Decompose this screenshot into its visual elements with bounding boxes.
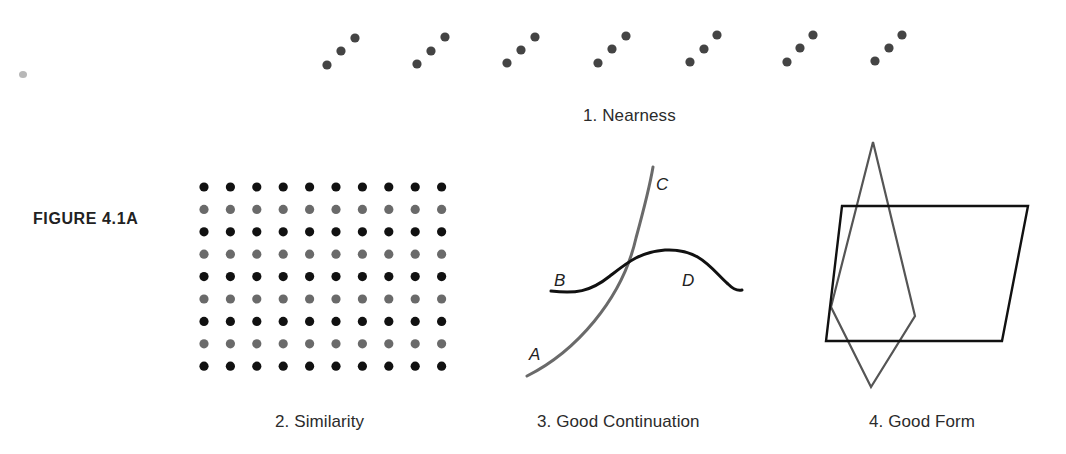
similarity-dot (331, 294, 340, 303)
similarity-dot (305, 339, 314, 348)
nearness-dot (607, 44, 616, 53)
similarity-dot (252, 294, 261, 303)
similarity-dot (358, 205, 367, 214)
similarity-dot (331, 339, 340, 348)
similarity-dot (384, 205, 393, 214)
similarity-dot (437, 182, 446, 191)
similarity-dot (279, 205, 288, 214)
similarity-dot (199, 250, 208, 259)
nearness-dot (712, 30, 721, 39)
curve-label-b: B (554, 272, 565, 289)
similarity-dot (331, 362, 340, 371)
similarity-dot (437, 317, 446, 326)
nearness-dot (530, 32, 539, 41)
nearness-dots (322, 30, 906, 69)
similarity-dot (226, 339, 235, 348)
curve-label-d: D (682, 272, 694, 289)
nearness-dot (699, 44, 708, 53)
curve-b-to-d (551, 250, 742, 292)
similarity-dot (384, 339, 393, 348)
similarity-dot (411, 317, 420, 326)
nearness-dot (336, 46, 345, 55)
similarity-dot (305, 317, 314, 326)
similarity-dot (279, 272, 288, 281)
similarity-dot (331, 250, 340, 259)
similarity-dot (226, 227, 235, 236)
similarity-dot (226, 362, 235, 371)
similarity-dot (252, 182, 261, 191)
similarity-dot (384, 182, 393, 191)
similarity-dot (358, 227, 367, 236)
figure-canvas (0, 0, 1066, 454)
similarity-dot (226, 205, 235, 214)
similarity-dot (252, 317, 261, 326)
similarity-dot (358, 362, 367, 371)
similarity-dot (199, 272, 208, 281)
similarity-dot (199, 227, 208, 236)
similarity-dot (358, 250, 367, 259)
similarity-dot (331, 317, 340, 326)
caption-good-continuation: 3. Good Continuation (537, 412, 700, 432)
similarity-dot (437, 294, 446, 303)
similarity-dot (437, 339, 446, 348)
similarity-dot (358, 182, 367, 191)
nearness-dot (322, 60, 331, 69)
nearness-dot (808, 30, 817, 39)
similarity-dot (305, 205, 314, 214)
similarity-dot (411, 272, 420, 281)
similarity-dot (226, 272, 235, 281)
similarity-dot (331, 205, 340, 214)
similarity-dot (199, 182, 208, 191)
similarity-dot (305, 272, 314, 281)
similarity-dot (199, 294, 208, 303)
similarity-dot (279, 182, 288, 191)
similarity-dot (279, 227, 288, 236)
similarity-dot (252, 227, 261, 236)
similarity-dot (358, 272, 367, 281)
similarity-dot (437, 362, 446, 371)
similarity-dot (199, 339, 208, 348)
nearness-dot (795, 43, 804, 52)
similarity-dot (279, 250, 288, 259)
similarity-dot (384, 227, 393, 236)
caption-nearness: 1. Nearness (583, 106, 676, 126)
similarity-dot (411, 294, 420, 303)
similarity-dot (331, 227, 340, 236)
nearness-dot (516, 45, 525, 54)
similarity-dot (279, 339, 288, 348)
nearness-dot (870, 56, 879, 65)
similarity-dot (358, 294, 367, 303)
similarity-dot (226, 182, 235, 191)
nearness-dot (685, 57, 694, 66)
similarity-dot (437, 272, 446, 281)
similarity-dot (358, 339, 367, 348)
similarity-dot (279, 362, 288, 371)
similarity-dot (199, 317, 208, 326)
similarity-dot (305, 362, 314, 371)
nearness-dot (884, 43, 893, 52)
similarity-dot (226, 250, 235, 259)
nearness-dot (502, 58, 511, 67)
kite-shape (831, 142, 915, 387)
parallelogram-shape (826, 206, 1028, 341)
similarity-dot (411, 205, 420, 214)
similarity-dot (411, 362, 420, 371)
similarity-dot (226, 294, 235, 303)
similarity-dot (252, 272, 261, 281)
nearness-dot (897, 30, 906, 39)
similarity-dot (384, 250, 393, 259)
nearness-dot (621, 31, 630, 40)
similarity-dot (384, 362, 393, 371)
nearness-dot (782, 57, 791, 66)
similarity-dot-grid (199, 182, 446, 370)
similarity-dot (437, 227, 446, 236)
similarity-dot (305, 250, 314, 259)
nearness-dot (593, 58, 602, 67)
similarity-dot (384, 272, 393, 281)
similarity-dot (252, 250, 261, 259)
similarity-dot (411, 339, 420, 348)
caption-good-form: 4. Good Form (869, 412, 975, 432)
similarity-dot (252, 362, 261, 371)
similarity-dot (305, 294, 314, 303)
similarity-dot (411, 182, 420, 191)
